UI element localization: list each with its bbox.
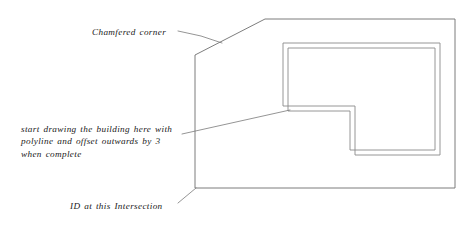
site-boundary-outline (195, 19, 455, 188)
leader-line-intersection-icon (178, 188, 196, 203)
annotation-chamfered-corner: Chamfered corner (92, 26, 166, 38)
annotation-start-drawing-line1: start drawing the building here with (21, 123, 172, 135)
cad-drawing-viewport (0, 0, 475, 225)
annotation-chamfered-corner-line1: Chamfered corner (92, 26, 166, 38)
annotation-start-drawing: start drawing the building here with pol… (21, 123, 172, 160)
drawing-canvas: Chamfered corner start drawing the build… (0, 0, 475, 225)
leader-line-chamfer-icon (178, 31, 222, 43)
building-outer-offset-outline (283, 43, 440, 155)
annotation-start-drawing-line3: when complete (21, 148, 172, 160)
leader-line-start-drawing-icon (182, 110, 290, 134)
annotation-id-at-intersection-line1: ID at this Intersection (70, 200, 163, 212)
annotation-start-drawing-line2: polyline and offset outwards by 3 (21, 135, 172, 147)
building-inner-polyline-outline (288, 48, 435, 150)
annotation-id-at-intersection: ID at this Intersection (70, 200, 163, 212)
